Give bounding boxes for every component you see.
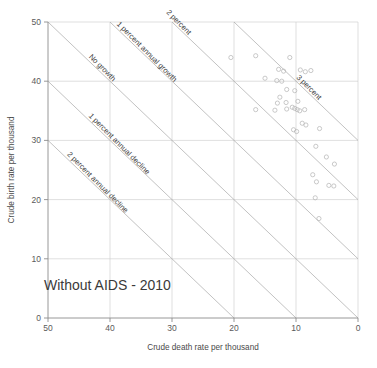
data-point	[273, 108, 277, 112]
y-tick-label: 30	[32, 135, 42, 145]
data-point	[285, 87, 289, 91]
plot-title: Without AIDS - 2010	[44, 277, 171, 293]
x-tick-label: 0	[356, 323, 361, 333]
data-point	[278, 95, 282, 99]
reference-label: 3 percent	[295, 73, 324, 102]
data-point	[311, 173, 315, 177]
reference-label: 2 percent	[164, 8, 193, 37]
growth-reference-lines	[48, 22, 358, 318]
data-point	[296, 99, 300, 103]
y-axis-title: Crude birth rate per thousand	[7, 116, 16, 223]
data-point	[304, 123, 308, 127]
data-point	[277, 67, 281, 71]
x-tick-label: 20	[229, 323, 239, 333]
data-point	[303, 108, 307, 112]
data-point	[275, 101, 279, 105]
data-point	[275, 79, 279, 83]
data-point	[317, 126, 321, 130]
data-points	[229, 54, 337, 221]
y-tick-label: 40	[32, 76, 42, 86]
data-point	[314, 144, 318, 148]
data-point	[313, 196, 317, 200]
data-point	[254, 108, 258, 112]
data-point	[324, 155, 328, 159]
data-point	[290, 105, 294, 109]
data-point	[309, 68, 313, 72]
x-tick-label: 50	[43, 323, 53, 333]
data-point	[327, 183, 331, 187]
data-point	[303, 70, 307, 74]
x-tick-label: 30	[167, 323, 177, 333]
data-point	[285, 107, 289, 111]
chart-container: 5040302010001020304050 No growth1 percen…	[0, 0, 377, 368]
data-point	[263, 76, 267, 80]
data-point	[314, 180, 318, 184]
x-axis-title: Crude death rate per thousand	[147, 343, 259, 352]
data-point	[317, 216, 321, 220]
y-tick-label: 20	[32, 195, 42, 205]
reference-label: 1 percent annual decline	[87, 111, 152, 176]
data-point	[284, 100, 288, 104]
data-point	[254, 54, 258, 58]
reference-label: No growth	[87, 52, 118, 83]
y-tick-label: 50	[32, 17, 42, 27]
y-tick-label: 0	[36, 313, 41, 323]
reference-line-labels: No growth1 percent annual growth2 percen…	[65, 8, 324, 215]
x-tick-label: 40	[105, 323, 115, 333]
reference-label: 2 percent annual decline	[65, 150, 130, 215]
data-point	[332, 162, 336, 166]
data-point	[298, 68, 302, 72]
y-tick-label: 10	[32, 254, 42, 264]
data-point	[229, 55, 233, 59]
data-point	[332, 184, 336, 188]
reference-label: 1 percent annual growth	[115, 20, 179, 84]
x-tick-label: 10	[291, 323, 301, 333]
data-point	[298, 109, 302, 113]
data-point	[288, 55, 292, 59]
scatter-chart: 5040302010001020304050 No growth1 percen…	[0, 0, 377, 368]
